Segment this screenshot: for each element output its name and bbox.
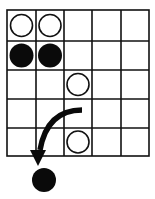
white-stone: [11, 15, 33, 37]
arrow-head-icon: [30, 150, 46, 166]
stones: [10, 15, 90, 154]
black-stone: [38, 44, 62, 68]
white-stone: [67, 131, 89, 153]
white-stone: [67, 74, 89, 96]
white-stone: [39, 15, 61, 37]
captured-black-stone: [32, 168, 56, 192]
black-stone: [10, 44, 34, 68]
game-board-diagram: [0, 0, 155, 199]
